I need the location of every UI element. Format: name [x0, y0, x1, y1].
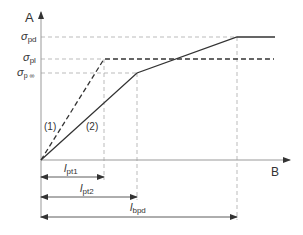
curve-2-solid: [41, 37, 275, 160]
curve-1-dashed: [41, 59, 274, 160]
lpt2-label: lpt2: [80, 182, 94, 196]
lbpd-label: lbpd: [130, 201, 146, 215]
diagram: A B σpd σpl σp ∞ (1) (2) lpt1 lpt2 lbpd: [0, 0, 303, 235]
sigma-pl-label: σpl: [23, 51, 36, 65]
curve-1-label: (1): [44, 121, 56, 132]
horizontal-guides: [41, 37, 237, 73]
x-axis-label: B: [271, 165, 279, 179]
vertical-guides: [104, 37, 237, 220]
sigma-pinf-label: σp ∞: [17, 66, 34, 80]
y-axis-label: A: [25, 10, 34, 25]
lpt1-label: lpt1: [64, 162, 78, 176]
sigma-pd-label: σpd: [21, 30, 37, 44]
curve-2-label: (2): [86, 121, 98, 132]
